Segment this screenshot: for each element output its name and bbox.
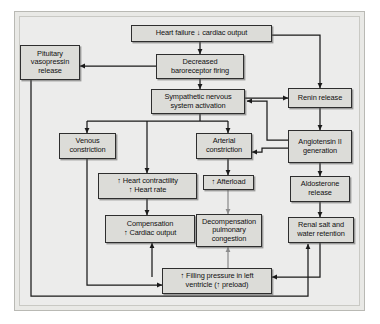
flowchart-figure: Heart failure ↓ cardiac output Pituitary… (0, 0, 380, 324)
node-venous-constriction[interactable]: Venous constriction (59, 133, 116, 159)
node-decreased-baroreceptor-firing[interactable]: Decreased baroreceptor firing (156, 54, 244, 79)
node-pituitary-vasopressin-release[interactable]: Pituitary vasopressin release (20, 45, 80, 80)
node-heart-failure[interactable]: Heart failure ↓ cardiac output (131, 25, 272, 42)
edge-renal-filling (272, 243, 320, 277)
node-renal-salt-water-retention[interactable]: Renal salt and water retention (288, 217, 354, 243)
edge-angiotensin-arterial (252, 148, 288, 152)
node-angiotensin-ii-generation[interactable]: Angiotensin II generation (288, 130, 352, 163)
node-increased-afterload[interactable]: ↑ Afterload (203, 175, 254, 190)
node-increased-heart-contractility-rate[interactable]: ↑ Heart contractility ↑ Heart rate (98, 173, 197, 199)
node-arterial-constriction[interactable]: Arterial constriction (196, 133, 252, 159)
edge-angiotensin-sympathetic (247, 101, 288, 140)
node-compensation-cardiac-output[interactable]: Compensation ↑ Cardiac output (105, 215, 195, 243)
node-renin-release[interactable]: Renin release (288, 88, 352, 108)
node-sympathetic-nervous-system-activation[interactable]: Sympathetic nervous system activation (151, 89, 245, 114)
node-aldosterone-release[interactable]: Aldosterone release (290, 176, 350, 202)
node-decompensation-pulmonary-congestion[interactable]: Decompensation pulmonary congestion (196, 214, 262, 247)
edge-heartfailure-renin (272, 35, 320, 88)
node-increased-filling-pressure-left-ventricle[interactable]: ↑ Filling pressure in left ventricle (↑ … (162, 268, 272, 294)
